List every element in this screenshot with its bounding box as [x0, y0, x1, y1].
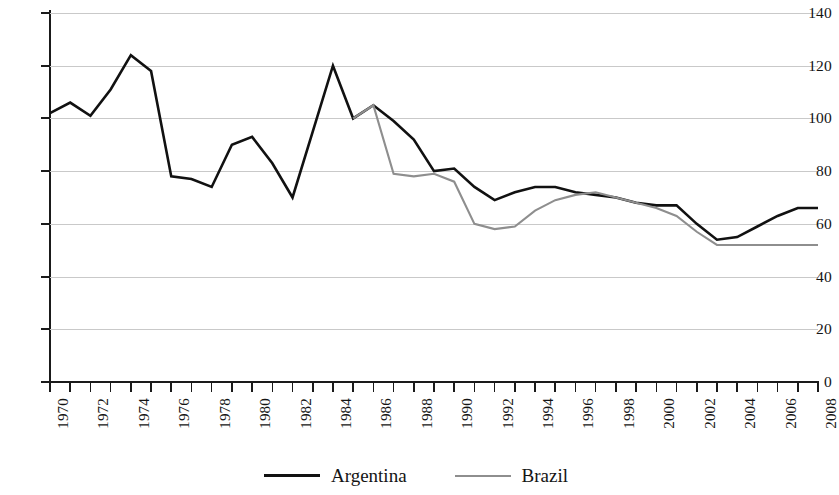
- x-axis-tick: [474, 383, 476, 392]
- x-axis-tick: [676, 383, 678, 392]
- series-layer: [50, 13, 818, 382]
- x-axis-tick: [656, 383, 658, 392]
- x-axis-label: 1988: [420, 398, 435, 429]
- series-line-brazil: [353, 105, 818, 245]
- x-axis-tick: [272, 383, 274, 392]
- x-axis-tick: [736, 383, 738, 392]
- y-axis-tick: [41, 328, 50, 330]
- legend-swatch-line-icon: [264, 474, 320, 477]
- x-axis-label: 1982: [299, 398, 314, 429]
- x-axis-tick: [170, 383, 172, 392]
- x-axis-tick: [534, 383, 536, 392]
- x-axis-tick: [90, 383, 92, 392]
- x-axis-tick: [575, 383, 577, 392]
- x-axis-label: 1996: [581, 398, 596, 429]
- x-axis-label: 1974: [137, 398, 152, 429]
- x-axis-tick: [231, 383, 233, 392]
- y-axis-tick: [41, 65, 50, 67]
- x-axis-tick: [777, 383, 779, 392]
- x-axis-tick: [595, 383, 597, 392]
- x-axis-label: 2008: [824, 398, 839, 429]
- legend-swatch-line-icon: [455, 475, 511, 477]
- x-axis-tick: [49, 383, 51, 392]
- x-axis-tick: [251, 383, 253, 392]
- x-axis-label: 1970: [56, 398, 71, 429]
- x-axis-tick: [635, 383, 637, 392]
- x-axis-tick: [453, 383, 455, 392]
- x-axis-tick: [150, 383, 152, 392]
- legend-item-brazil: Brazil: [455, 466, 568, 485]
- legend-label-brazil: Brazil: [522, 466, 568, 485]
- x-axis-tick: [352, 383, 354, 392]
- x-axis-label: 2004: [743, 398, 758, 429]
- legend-label-argentina: Argentina: [331, 466, 407, 485]
- x-axis-tick: [130, 383, 132, 392]
- x-axis-tick: [817, 383, 819, 392]
- x-axis-tick: [757, 383, 759, 392]
- chart-legend: Argentina Brazil: [0, 466, 832, 485]
- legend-item-argentina: Argentina: [264, 466, 407, 485]
- x-axis-label: 1972: [96, 398, 111, 429]
- x-axis-tick: [494, 383, 496, 392]
- x-axis-tick: [433, 383, 435, 392]
- x-axis-tick: [191, 383, 193, 392]
- series-line-argentina: [50, 55, 818, 240]
- x-axis-label: 1978: [218, 398, 233, 429]
- x-axis-label: 1984: [339, 398, 354, 429]
- x-axis-label: 1990: [460, 398, 475, 429]
- x-axis-tick: [332, 383, 334, 392]
- y-axis-tick: [41, 12, 50, 14]
- x-axis-tick: [696, 383, 698, 392]
- x-axis-tick: [615, 383, 617, 392]
- x-axis-tick: [716, 383, 718, 392]
- x-axis-label: 2000: [662, 398, 677, 429]
- y-axis-tick: [41, 223, 50, 225]
- x-axis-label: 1994: [541, 398, 556, 429]
- x-axis-label: 1986: [379, 398, 394, 429]
- x-axis-tick: [312, 383, 314, 392]
- y-axis-tick: [41, 276, 50, 278]
- x-axis-tick: [393, 383, 395, 392]
- x-axis-label: 2006: [784, 398, 799, 429]
- y-axis-tick: [41, 170, 50, 172]
- x-axis-tick: [554, 383, 556, 392]
- x-axis-tick: [211, 383, 213, 392]
- x-axis-tick: [514, 383, 516, 392]
- x-axis-tick: [69, 383, 71, 392]
- y-axis-tick: [41, 117, 50, 119]
- x-axis-label: 2002: [703, 398, 718, 429]
- x-axis-tick: [413, 383, 415, 392]
- x-axis-label: 1998: [622, 398, 637, 429]
- x-axis-tick: [292, 383, 294, 392]
- x-axis-tick: [110, 383, 112, 392]
- x-axis-tick: [373, 383, 375, 392]
- x-axis-label: 1980: [258, 398, 273, 429]
- x-axis-label: 1992: [501, 398, 516, 429]
- x-axis-tick: [797, 383, 799, 392]
- x-axis-label: 1976: [177, 398, 192, 429]
